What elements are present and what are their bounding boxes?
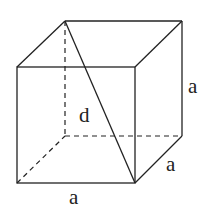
height-label: a: [188, 74, 198, 98]
space-diagonal: [65, 21, 135, 183]
cube-diagram: d a a a: [0, 0, 211, 212]
width-label: a: [69, 185, 79, 209]
diagonal-label: d: [79, 103, 90, 127]
front-face: [17, 67, 135, 183]
hidden-depth-edge: [17, 136, 65, 183]
top-right-edge: [135, 21, 182, 67]
depth-label: a: [166, 152, 176, 176]
top-left-edge: [17, 21, 65, 67]
